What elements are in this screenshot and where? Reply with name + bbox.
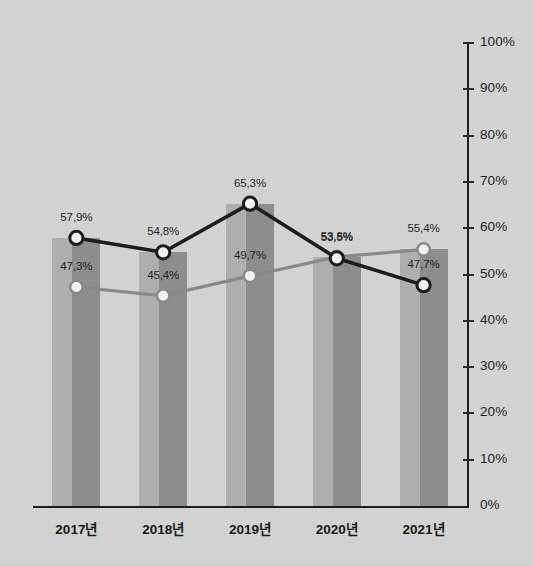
gray-line-series-marker-2021년 bbox=[417, 243, 429, 255]
dark-line-series-marker-2019년 bbox=[243, 197, 256, 210]
dark-line-series-value-label-2018년: 54,8% bbox=[123, 225, 203, 237]
plot-area: 0%10%20%30%40%50%60%70%80%90%100%2017년20… bbox=[0, 0, 534, 566]
dark-line-series-marker-2020년 bbox=[330, 252, 343, 265]
gray-line-series-value-label-2020년: 53,8% bbox=[297, 230, 377, 242]
gray-line-series-marker-2019년 bbox=[244, 270, 256, 282]
gray-line-series-value-label-2019년: 49,7% bbox=[210, 249, 290, 261]
series-layer bbox=[0, 0, 534, 566]
chart-canvas: 0%10%20%30%40%50%60%70%80%90%100%2017년20… bbox=[0, 0, 534, 566]
dark-line-series-marker-2018년 bbox=[157, 246, 170, 259]
dark-line-series-value-label-2017년: 57,9% bbox=[36, 211, 116, 223]
dark-line-series-marker-2017년 bbox=[70, 231, 83, 244]
gray-line-series-value-label-2017년: 47,3% bbox=[36, 260, 116, 272]
dark-line-series-value-label-2021년: 47,7% bbox=[384, 258, 464, 270]
gray-line-series-value-label-2018년: 45,4% bbox=[123, 269, 203, 281]
dark-line-series-marker-2021년 bbox=[417, 279, 430, 292]
gray-line-series-marker-2017년 bbox=[70, 281, 82, 293]
gray-line-series-marker-2018년 bbox=[157, 290, 169, 302]
dark-line-series-value-label-2019년: 65,3% bbox=[210, 177, 290, 189]
gray-line-series-value-label-2021년: 55,4% bbox=[384, 222, 464, 234]
